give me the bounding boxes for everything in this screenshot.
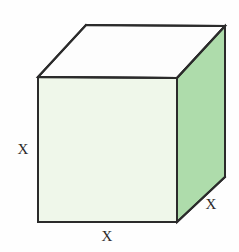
edge-front-top	[38, 77, 177, 78]
cube-front-face	[38, 77, 177, 222]
cube-figure: X X X	[0, 0, 239, 252]
dimension-label-bottom-edge: X	[102, 229, 113, 244]
dimension-label-depth-edge: X	[206, 197, 217, 212]
edge-top-back	[86, 25, 225, 26]
cube-drawing	[0, 0, 239, 252]
dimension-label-left-edge: X	[18, 142, 29, 157]
